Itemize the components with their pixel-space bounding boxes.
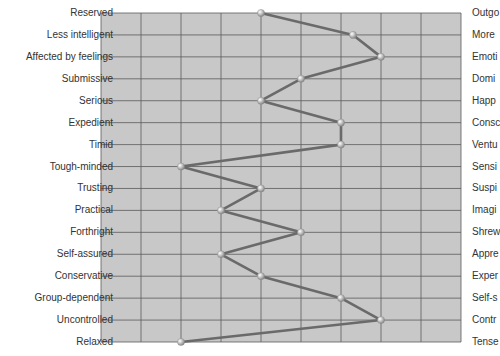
right-trait-label: Ventu: [472, 139, 498, 151]
grid-background: [101, 13, 461, 342]
data-point-marker: [377, 316, 384, 323]
left-trait-label: Serious: [79, 95, 113, 107]
right-trait-label: Self-s: [472, 292, 498, 304]
data-point-marker: [257, 185, 264, 192]
right-trait-label: Tense: [472, 336, 499, 348]
data-point-marker: [257, 273, 264, 280]
data-point-marker: [297, 229, 304, 236]
right-trait-label: Suspi: [472, 182, 497, 194]
right-trait-label: Consc: [472, 117, 500, 129]
right-trait-label: Happ: [472, 95, 496, 107]
data-point-marker: [377, 53, 384, 60]
data-point-marker: [177, 338, 184, 345]
left-trait-label: Expedient: [69, 117, 113, 129]
right-trait-label: Contr: [472, 314, 496, 326]
left-trait-label: Affected by feelings: [26, 51, 113, 63]
left-trait-label: Conservative: [55, 270, 113, 282]
data-point-marker: [257, 9, 264, 16]
data-point-marker: [297, 75, 304, 82]
left-trait-label: Forthright: [70, 226, 113, 238]
left-trait-label: Relaxed: [76, 336, 113, 348]
left-trait-label: Self-assured: [57, 248, 113, 260]
data-point-marker: [257, 97, 264, 104]
data-point-marker: [217, 251, 224, 258]
right-trait-label: Outgo: [472, 7, 499, 19]
right-trait-label: Domi: [472, 73, 495, 85]
left-trait-label: Uncontrolled: [57, 314, 113, 326]
right-trait-label: Imagi: [472, 204, 496, 216]
data-point-marker: [177, 163, 184, 170]
left-trait-label: Group-dependent: [35, 292, 113, 304]
data-point-marker: [217, 207, 224, 214]
data-point-marker: [337, 119, 344, 126]
right-trait-label: Emoti: [472, 51, 498, 63]
left-trait-label: Tough-minded: [50, 161, 113, 173]
right-trait-label: Sensi: [472, 161, 497, 173]
left-trait-label: Less intelligent: [47, 29, 113, 41]
right-trait-label: Appre: [472, 248, 499, 260]
right-trait-label: Exper: [472, 270, 498, 282]
data-point-marker: [349, 31, 356, 38]
left-trait-label: Reserved: [70, 7, 113, 19]
data-point-marker: [337, 295, 344, 302]
right-trait-label: More: [472, 29, 495, 41]
left-trait-label: Timid: [89, 139, 113, 151]
data-point-marker: [337, 141, 344, 148]
left-trait-label: Practical: [75, 204, 113, 216]
left-trait-label: Submissive: [62, 73, 113, 85]
left-trait-label: Trusting: [77, 182, 113, 194]
right-trait-label: Shrew: [472, 226, 500, 238]
